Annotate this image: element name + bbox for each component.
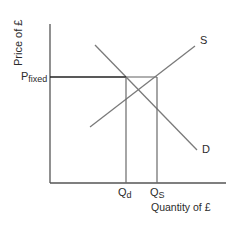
supply-curve [90, 46, 195, 127]
qd-sub: d [127, 190, 132, 200]
y-axis-label: Price of £ [12, 20, 24, 66]
supply-label: S [200, 34, 207, 46]
price-fixed-label: Pfixed [21, 70, 47, 84]
demand-curve [95, 45, 197, 150]
qs-sub: S [159, 190, 165, 200]
price-fixed-sub: fixed [28, 74, 47, 84]
x-axis-label: Quantity of £ [151, 201, 211, 213]
qd-main: Q [118, 186, 127, 198]
qs-label: QS [150, 186, 165, 200]
qd-label: Qd [118, 186, 132, 200]
qs-main: Q [150, 186, 159, 198]
demand-label: D [202, 143, 210, 155]
